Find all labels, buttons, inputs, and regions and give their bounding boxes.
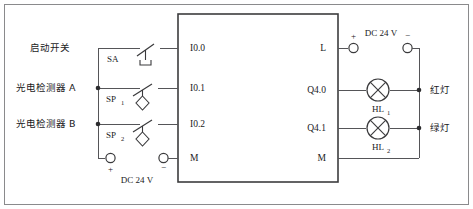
proximity-sensor-icon xyxy=(136,96,149,110)
input-supply-plus-sign: + xyxy=(108,164,113,174)
plc-output-terminal-l: L xyxy=(320,43,326,53)
plc-input-terminal-i01: I0.1 xyxy=(190,83,205,93)
designation-sp1: SP xyxy=(106,94,116,104)
plc-wiring-diagram: 启动开关 光电检测器 A 光电检测器 B SA SP 1 SP 2 I0.0 I… xyxy=(0,0,473,209)
junction-dot-hl1 xyxy=(417,88,422,93)
output-supply-positive-terminal xyxy=(349,43,358,52)
pushbutton-icon xyxy=(140,60,151,65)
designation-hl1: HL xyxy=(372,104,384,114)
plc-output-terminal-m: M xyxy=(318,153,327,163)
plc-unit xyxy=(178,14,338,182)
junction-dot-hl2 xyxy=(417,126,422,131)
designation-sp2-sub: 2 xyxy=(121,135,124,142)
plc-input-terminal-i02: I0.2 xyxy=(190,119,205,129)
label-green-lamp: 绿灯 xyxy=(430,122,450,133)
designation-hl2: HL xyxy=(372,142,384,152)
plc-input-terminal-i00: I0.0 xyxy=(190,43,205,53)
input-supply-positive-terminal xyxy=(106,153,115,162)
junction-dot-sp2 xyxy=(96,122,101,127)
label-photo-detector-b: 光电检测器 B xyxy=(16,118,76,129)
input-supply-label: DC 24 V xyxy=(121,175,154,185)
wiring-canvas: 启动开关 光电检测器 A 光电检测器 B SA SP 1 SP 2 I0.0 I… xyxy=(0,0,473,209)
designation-sp1-sub: 1 xyxy=(121,99,124,106)
plc-input-terminal-m: M xyxy=(190,153,199,163)
plc-output-terminal-q41: Q4.1 xyxy=(307,123,326,133)
designation-hl1-sub: 1 xyxy=(387,109,390,116)
output-supply-plus-sign: + xyxy=(351,31,356,41)
junction-dot-sp1 xyxy=(96,86,101,91)
designation-hl2-sub: 2 xyxy=(387,147,390,154)
output-supply-negative-terminal xyxy=(403,43,412,52)
designation-sa: SA xyxy=(107,54,119,64)
label-start-switch: 启动开关 xyxy=(30,42,70,53)
plc-output-terminal-q40: Q4.0 xyxy=(307,85,326,95)
input-supply-minus-sign: − xyxy=(161,162,166,172)
label-photo-detector-a: 光电检测器 A xyxy=(16,82,76,93)
proximity-sensor-icon-2 xyxy=(136,132,149,146)
output-supply-label: DC 24 V xyxy=(365,28,398,38)
designation-sp2: SP xyxy=(106,130,116,140)
label-red-lamp: 红灯 xyxy=(430,84,450,95)
output-supply-minus-sign: − xyxy=(405,30,410,40)
